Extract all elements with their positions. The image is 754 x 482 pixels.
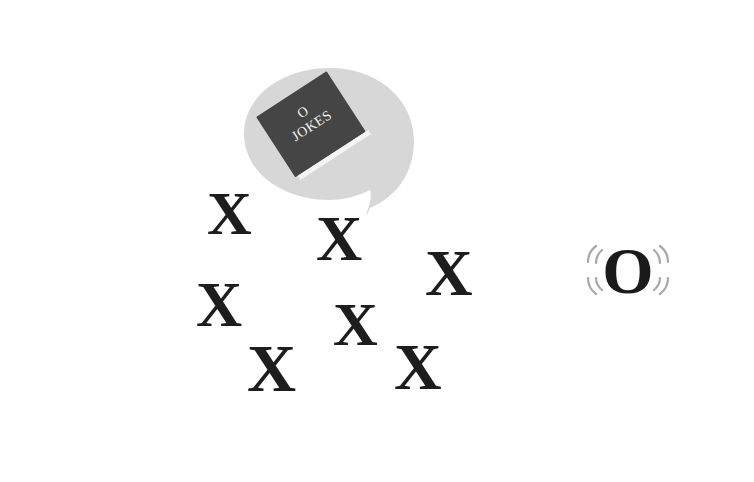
- x-mark-6: X: [333, 293, 378, 355]
- x-mark-3: X: [425, 240, 473, 306]
- x-mark-1: X: [207, 182, 252, 244]
- x-mark-7: X: [394, 334, 442, 400]
- x-mark-2: X: [316, 207, 362, 271]
- illustration-scene: O JOKES X X X X X X X: [0, 0, 754, 482]
- vibrating-o: O: [578, 236, 678, 306]
- x-mark-5: X: [247, 334, 296, 402]
- o-mark: O: [594, 238, 662, 304]
- x-mark-4: X: [196, 273, 242, 337]
